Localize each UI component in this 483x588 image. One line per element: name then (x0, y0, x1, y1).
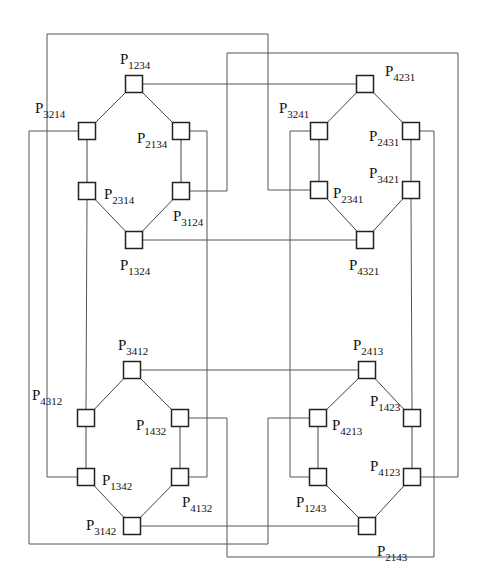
node-p4231: P4231 (357, 63, 416, 93)
node-p1423: P1423 (370, 393, 421, 427)
node-label: P1342 (102, 472, 132, 492)
node-label: P3214 (35, 100, 66, 120)
node-label: P2413 (353, 337, 384, 357)
wire-p3241-p1243 (290, 131, 310, 477)
node-box (126, 232, 143, 249)
node-box (310, 469, 327, 486)
node-p1342: P1342 (78, 469, 133, 493)
node-label: P2143 (377, 543, 408, 563)
network-diagram: P1234P3214P2134P2314P3124P1324P4231P3241… (0, 0, 483, 588)
node-label: P1423 (370, 393, 401, 413)
node-p4321: P4321 (349, 232, 379, 278)
node-p2413: P2413 (353, 337, 384, 379)
node-p2431: P2431 (369, 123, 420, 149)
wire-p2314-p4312 (86, 200, 87, 409)
node-p3142: P3142 (86, 517, 141, 537)
node-p3214: P3214 (35, 100, 96, 140)
node-label: P2134 (137, 130, 168, 150)
node-p1324: P1324 (120, 232, 151, 278)
node-p1432: P1432 (136, 410, 189, 438)
node-box (403, 182, 420, 199)
node-label: P3241 (279, 100, 309, 120)
node-box (173, 183, 190, 200)
node-box (359, 362, 376, 379)
node-p3412: P3412 (118, 337, 148, 379)
node-p1234: P1234 (120, 51, 151, 93)
node-box (124, 362, 141, 379)
node-box (124, 518, 141, 535)
node-box (357, 76, 374, 93)
cluster-edge-layer (86, 84, 412, 526)
node-box (126, 76, 143, 93)
node-p4312: P4312 (32, 387, 95, 427)
node-p3124: P3124 (173, 183, 204, 229)
node-label: P4123 (370, 458, 401, 478)
node-p2143: P2143 (359, 518, 408, 564)
node-box (172, 469, 189, 486)
node-label: P2314 (104, 186, 135, 206)
node-box (310, 410, 327, 427)
node-label: P2431 (369, 128, 399, 148)
node-p4123: P4123 (370, 458, 421, 486)
node-label: P1234 (120, 51, 151, 71)
node-label: P3412 (118, 337, 148, 357)
node-box (79, 183, 96, 200)
node-p3421: P3421 (369, 165, 420, 199)
node-box (78, 469, 95, 486)
node-box (311, 182, 328, 199)
node-box (404, 469, 421, 486)
node-p1243: P1243 (296, 469, 327, 515)
wire-p3214-p4213 (29, 131, 309, 544)
node-label: P4132 (182, 494, 212, 514)
node-p2134: P2134 (137, 123, 190, 151)
node-label: P3124 (173, 208, 204, 228)
node-layer: P1234P3214P2134P2314P3124P1324P4231P3241… (32, 51, 421, 563)
node-label: P1324 (120, 257, 151, 277)
node-box (359, 518, 376, 535)
node-label: P2341 (333, 185, 363, 205)
node-box (403, 123, 420, 140)
node-label: P3421 (369, 165, 399, 185)
node-label: P1243 (296, 494, 327, 514)
wire-p3421-p1423 (411, 199, 412, 409)
node-box (404, 410, 421, 427)
node-p3241: P3241 (279, 100, 328, 140)
node-box (172, 410, 189, 427)
node-label: P1432 (136, 417, 166, 437)
node-label: P3142 (86, 517, 116, 537)
wire-p2134-p4132 (189, 131, 207, 477)
node-box (79, 123, 96, 140)
node-p2341: P2341 (311, 182, 364, 206)
node-label: P4213 (332, 417, 363, 437)
node-box (173, 123, 190, 140)
node-label: P4231 (385, 63, 415, 83)
node-box (311, 123, 328, 140)
node-label: P4321 (349, 257, 379, 277)
node-box (78, 410, 95, 427)
node-p4132: P4132 (172, 469, 213, 515)
node-box (357, 232, 374, 249)
